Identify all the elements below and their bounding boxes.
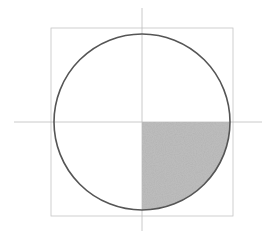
diagram-canvas [0,0,276,231]
circle-quadrant-sketch [0,0,276,231]
